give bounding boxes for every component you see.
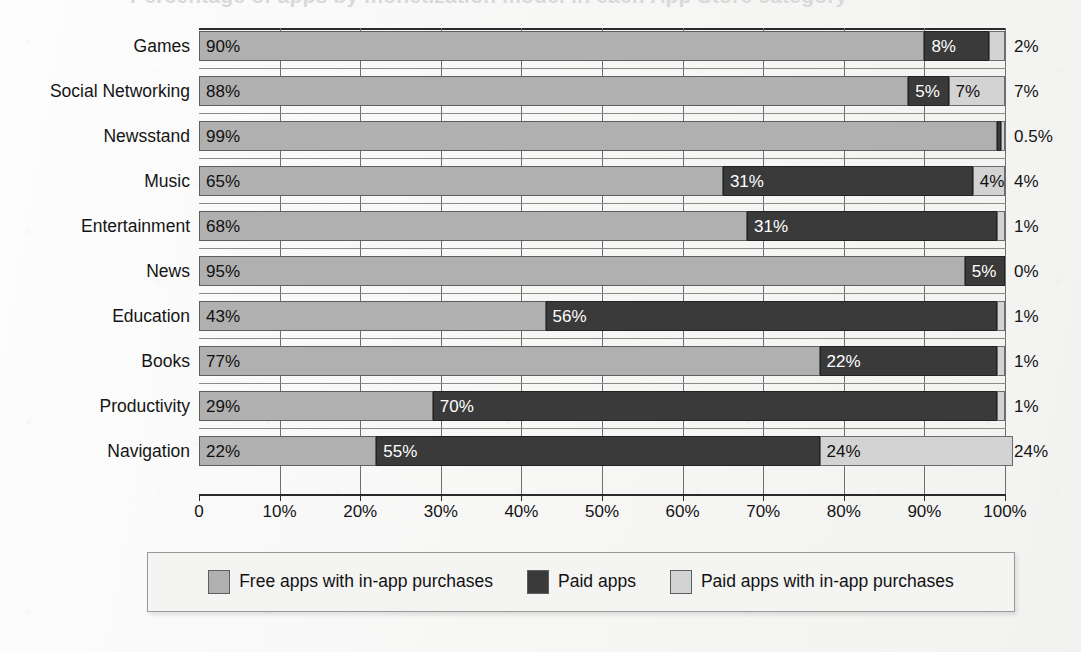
x-tick-40% bbox=[521, 494, 522, 501]
segment-paid-apps-with-iap: 4% bbox=[973, 166, 1005, 196]
segment-paid-apps-with-iap bbox=[997, 211, 1005, 241]
legend-item: Free apps with in-app purchases bbox=[208, 570, 493, 594]
segment-free-apps-with-iap: 99% bbox=[199, 121, 997, 151]
x-tick-label: 40% bbox=[504, 503, 538, 520]
x-tick-0 bbox=[199, 494, 200, 501]
outside-value-label: 1% bbox=[1014, 353, 1039, 370]
segment-value-label: 8% bbox=[925, 38, 956, 55]
outside-value-label: 0.5% bbox=[1014, 128, 1053, 145]
segment-paid-apps: 70% bbox=[433, 391, 997, 421]
segment-free-apps-with-iap: 95% bbox=[199, 256, 965, 286]
segment-free-apps-with-iap: 90% bbox=[199, 31, 924, 61]
segment-free-apps-with-iap: 22% bbox=[199, 436, 376, 466]
category-label-social-networking: Social Networking bbox=[50, 83, 190, 101]
x-tick-label: 20% bbox=[343, 503, 377, 520]
category-label-education: Education bbox=[112, 308, 190, 326]
segment-value-label: 99% bbox=[200, 128, 240, 145]
bar-row: 95%5% bbox=[199, 256, 1005, 286]
segment-free-apps-with-iap: 68% bbox=[199, 211, 747, 241]
row-divider bbox=[199, 383, 1006, 384]
segment-value-label: 55% bbox=[377, 443, 417, 460]
x-tick-80% bbox=[844, 494, 845, 501]
gridline-100% bbox=[1005, 28, 1006, 494]
segment-value-label: 90% bbox=[200, 38, 240, 55]
segment-value-label: 5% bbox=[966, 263, 997, 280]
row-divider bbox=[199, 158, 1006, 159]
x-tick-label: 0 bbox=[194, 503, 203, 520]
bar-row: 65%31%4% bbox=[199, 166, 1005, 196]
segment-value-label: 95% bbox=[200, 263, 240, 280]
x-tick-label: 80% bbox=[827, 503, 861, 520]
x-tick-30% bbox=[441, 494, 442, 501]
chart-page: Percentage of apps by monetization model… bbox=[0, 0, 1081, 652]
segment-paid-apps-with-iap bbox=[997, 346, 1005, 376]
outside-value-label: 4% bbox=[1014, 173, 1039, 190]
legend-swatch-icon bbox=[527, 570, 549, 594]
x-tick-10% bbox=[280, 494, 281, 501]
category-label-games: Games bbox=[134, 38, 190, 56]
segment-value-label: 70% bbox=[434, 398, 474, 415]
segment-paid-apps: 56% bbox=[546, 301, 997, 331]
segment-value-label: 68% bbox=[200, 218, 240, 235]
bar-row: 99% bbox=[199, 121, 1005, 151]
segment-paid-apps: 22% bbox=[820, 346, 997, 376]
segment-value-label: 56% bbox=[547, 308, 587, 325]
segment-paid-apps: 8% bbox=[924, 31, 988, 61]
x-tick-label: 60% bbox=[666, 503, 700, 520]
bar-row: 22%55%24% bbox=[199, 436, 1005, 466]
bar-row: 29%70% bbox=[199, 391, 1005, 421]
segment-value-label: 31% bbox=[748, 218, 788, 235]
segment-free-apps-with-iap: 29% bbox=[199, 391, 433, 421]
category-label-newsstand: Newsstand bbox=[103, 128, 190, 146]
segment-paid-apps-with-iap bbox=[1001, 121, 1005, 151]
segment-paid-apps: 5% bbox=[965, 256, 1005, 286]
row-divider bbox=[199, 113, 1006, 114]
segment-value-label: 29% bbox=[200, 398, 240, 415]
segment-paid-apps: 31% bbox=[723, 166, 973, 196]
segment-value-label: 24% bbox=[821, 443, 861, 460]
bar-row: 68%31% bbox=[199, 211, 1005, 241]
category-label-productivity: Productivity bbox=[100, 398, 190, 416]
segment-free-apps-with-iap: 65% bbox=[199, 166, 723, 196]
x-tick-label: 30% bbox=[424, 503, 458, 520]
segment-value-label: 31% bbox=[724, 173, 764, 190]
x-tick-label: 50% bbox=[585, 503, 619, 520]
segment-value-label: 4% bbox=[974, 173, 1005, 190]
x-tick-90% bbox=[924, 494, 925, 501]
x-tick-100% bbox=[1005, 494, 1006, 501]
row-divider bbox=[199, 203, 1006, 204]
category-label-music: Music bbox=[144, 173, 190, 191]
legend-swatch-icon bbox=[670, 570, 692, 594]
legend-label: Free apps with in-app purchases bbox=[239, 573, 493, 591]
segment-value-label: 5% bbox=[909, 83, 940, 100]
outside-value-label: 1% bbox=[1014, 218, 1039, 235]
bar-row: 88%5%7% bbox=[199, 76, 1005, 106]
row-divider bbox=[199, 68, 1006, 69]
x-tick-label: 90% bbox=[907, 503, 941, 520]
segment-free-apps-with-iap: 88% bbox=[199, 76, 908, 106]
legend-swatch-icon bbox=[208, 570, 230, 594]
category-label-news: News bbox=[146, 263, 190, 281]
segment-value-label: 22% bbox=[200, 443, 240, 460]
chart-legend: Free apps with in-app purchasesPaid apps… bbox=[147, 552, 1015, 612]
legend-label: Paid apps bbox=[558, 573, 636, 591]
legend-label: Paid apps with in-app purchases bbox=[701, 573, 954, 591]
row-divider bbox=[199, 293, 1006, 294]
segment-paid-apps-with-iap bbox=[997, 391, 1005, 421]
segment-value-label: 65% bbox=[200, 173, 240, 190]
legend-item: Paid apps with in-app purchases bbox=[670, 570, 954, 594]
segment-value-label: 22% bbox=[821, 353, 861, 370]
row-divider bbox=[199, 338, 1006, 339]
outside-value-label: 0% bbox=[1014, 263, 1039, 280]
segment-paid-apps: 55% bbox=[376, 436, 819, 466]
bar-row: 90%8% bbox=[199, 31, 1005, 61]
outside-value-label: 1% bbox=[1014, 308, 1039, 325]
segment-paid-apps-with-iap: 24% bbox=[820, 436, 1013, 466]
x-tick-label: 70% bbox=[746, 503, 780, 520]
x-tick-label: 100% bbox=[983, 503, 1026, 520]
segment-paid-apps: 31% bbox=[747, 211, 997, 241]
segment-value-label: 7% bbox=[950, 83, 981, 100]
x-tick-20% bbox=[360, 494, 361, 501]
x-tick-70% bbox=[763, 494, 764, 501]
bar-row: 43%56% bbox=[199, 301, 1005, 331]
